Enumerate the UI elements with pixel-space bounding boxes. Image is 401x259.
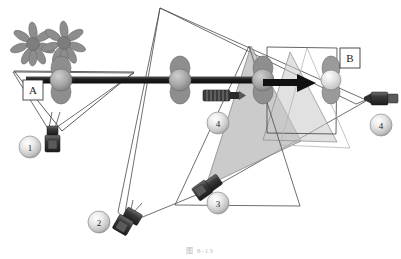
marker-badge-3: 3 [207,192,229,214]
marker-label-4-right: 4 [379,121,384,131]
sensor-probe [203,90,246,101]
camera-station-4[interactable] [364,92,398,105]
label-box-a: A [23,80,43,100]
figure-container: 1 2 3 4 [0,0,401,259]
marker-badge-2: 2 [88,211,110,233]
marker-badge-4-left: 4 [207,112,229,134]
camera-station-1[interactable] [45,112,60,152]
lens-assembly-a [50,56,72,104]
lens-assembly-mid [169,56,191,104]
label-box-b: B [340,48,360,68]
fov-cone-camera-2 [118,8,160,219]
lens-assembly-b [321,56,341,104]
marker-label-2: 2 [97,218,102,228]
marker-label-1: 1 [28,143,33,153]
label-b-text: B [346,52,353,64]
marker-badge-1: 1 [19,136,41,158]
camera-station-2[interactable] [112,200,143,236]
marker-badge-4-right: 4 [370,114,392,136]
diagram-canvas: 1 2 3 4 [0,0,401,259]
figure-caption: 图 8-13 [186,247,214,255]
marker-label-4-left: 4 [216,119,221,129]
marker-label-3: 3 [216,199,221,209]
label-a-text: A [29,84,37,96]
